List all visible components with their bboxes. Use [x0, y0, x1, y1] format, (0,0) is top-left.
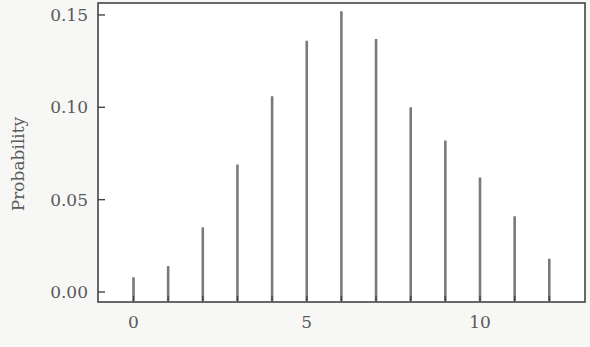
- y-axis-label: Probability: [8, 116, 28, 211]
- x-tick-label: 5: [301, 312, 312, 332]
- probability-spike-chart: 0510 0.000.050.100.15 Probability: [0, 0, 590, 347]
- x-tick-label: 0: [128, 312, 139, 332]
- y-tick-label: 0.10: [50, 97, 88, 117]
- y-axis-ticks: 0.000.050.100.15: [50, 5, 105, 302]
- y-tick-label: 0.00: [50, 282, 88, 302]
- x-tick-label: 10: [469, 312, 491, 332]
- y-tick-label: 0.15: [50, 5, 88, 25]
- y-tick-label: 0.05: [50, 190, 88, 210]
